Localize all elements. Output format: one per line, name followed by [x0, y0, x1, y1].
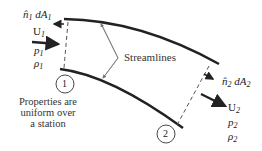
station2-number: 2 [163, 128, 168, 140]
station1-dashed-line [64, 22, 68, 68]
velocity2-label: U2 [228, 101, 240, 117]
density1-label: ρ1 [34, 57, 43, 73]
streamlines-label: Streamlines [124, 51, 176, 63]
velocity2-arrow [201, 94, 225, 106]
uniform-properties-note: Properties are uniform over a station [8, 96, 88, 129]
normal1-label: n̂1 dA1 [23, 8, 51, 24]
note-line-1: Properties are [8, 96, 88, 107]
note-line-2: uniform over [8, 107, 88, 118]
normal2-arrow [204, 74, 213, 79]
station1-number: 1 [62, 78, 67, 90]
velocity1-label: U1 [33, 25, 45, 41]
density2-label: ρ2 [228, 130, 237, 146]
note-line-3: a station [8, 118, 88, 129]
normal2-label: n̂2 dA2 [222, 75, 250, 91]
